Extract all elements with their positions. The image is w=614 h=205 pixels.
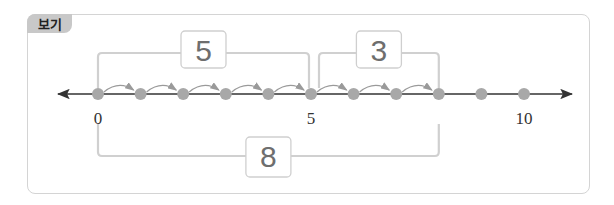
jump-arrow (189, 85, 219, 92)
number-point (135, 88, 147, 100)
number-line-diagram: 538 0510 (0, 0, 614, 205)
bracket-label: 3 (371, 34, 388, 67)
number-point (390, 88, 402, 100)
number-point (433, 88, 445, 100)
number-point (262, 88, 274, 100)
jump-arrow (402, 85, 432, 92)
jump-arrow (232, 85, 262, 92)
number-point (305, 88, 317, 100)
jump-arrow (147, 85, 177, 92)
tick-label: 5 (307, 109, 316, 128)
jump-arrow (360, 85, 390, 92)
jump-arrow (274, 85, 304, 92)
bracket-label: 8 (260, 140, 277, 173)
number-point (92, 88, 104, 100)
bracket-label: 5 (195, 34, 212, 67)
jump-arrow (104, 85, 134, 92)
number-point (475, 88, 487, 100)
number-point (177, 88, 189, 100)
tick-label: 0 (94, 109, 103, 128)
number-point (220, 88, 232, 100)
jump-arrow (317, 85, 347, 92)
number-point (518, 88, 530, 100)
tick-label: 10 (516, 109, 533, 128)
number-point (348, 88, 360, 100)
